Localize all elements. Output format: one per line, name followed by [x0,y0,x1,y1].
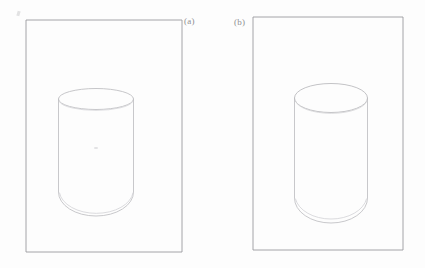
figure-drawing [0,0,425,268]
panel-a-cylinder-bottom-arc [60,193,134,213]
panel-b-cylinder-body [295,98,368,223]
panel-b-cylinder-top-ellipse [295,84,368,113]
panel-a-cylinder-top-ellipse [59,89,134,110]
panel-a [26,20,182,252]
panel-a-interior-smudge [94,147,98,149]
panel-b-frame [253,17,403,250]
panel-b-label: (b) [234,18,245,27]
panel-a-frame [26,20,182,252]
panel-b-cylinder-rim-echo [296,101,368,113]
panel-a-label: (a) [184,17,195,26]
panel-b [253,17,403,250]
panel-a-cylinder-body [59,99,134,216]
figure-sheet: (a) (b) [0,0,425,268]
